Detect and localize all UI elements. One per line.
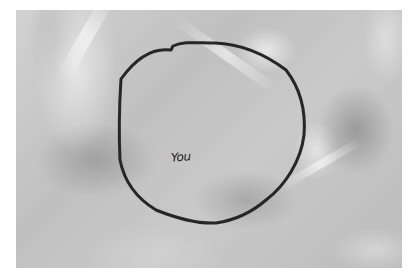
- handwritten-label: You: [171, 149, 191, 164]
- hand-drawn-circle: [16, 10, 402, 268]
- photo-frame: You: [16, 10, 402, 268]
